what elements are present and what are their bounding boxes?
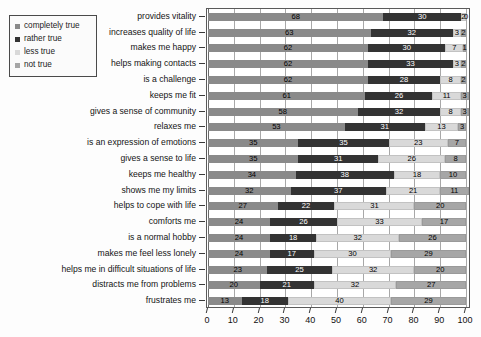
bar-row: 683020 [207, 13, 469, 21]
x-tick-70 [386, 308, 388, 313]
bar-segment-rather-true [260, 281, 314, 289]
bar-segment-less-true [314, 250, 391, 258]
category-label-9: gives a sense to life [0, 153, 200, 163]
bar-segment-not-true [399, 234, 466, 242]
x-tick-label-100: 100 [452, 315, 478, 325]
bar-segment-rather-true [270, 218, 337, 226]
bar-segment-rather-true [345, 123, 425, 131]
bar-row: 24183226 [207, 234, 469, 242]
category-label-11: shows me my limits [0, 185, 200, 195]
bar-segment-rather-true [365, 92, 432, 100]
x-tick-label-40: 40 [297, 315, 323, 325]
x-tick-label-20: 20 [246, 315, 272, 325]
bar-row: 13184029 [207, 297, 469, 305]
bar-segment-not-true [461, 76, 466, 84]
bar-segment-rather-true [242, 297, 288, 305]
x-tick-20 [257, 308, 259, 313]
x-tick-0 [206, 308, 208, 313]
category-label-2: makes me happy [0, 42, 200, 52]
bar-row: 20213227 [207, 281, 469, 289]
x-tick-60 [361, 308, 363, 313]
bar-segment-rather-true [368, 60, 453, 68]
bar-row: 5331133 [207, 123, 469, 131]
bar-row: 24263317 [207, 218, 469, 226]
bar-segment-completely-true [208, 76, 368, 84]
y-tick-6 [199, 111, 205, 112]
bar-segment-completely-true [208, 123, 345, 131]
bar-segment-less-true [461, 13, 466, 21]
bar-segment-not-true [463, 44, 466, 52]
bar-segment-completely-true [208, 218, 270, 226]
bar-segment-less-true [386, 187, 440, 195]
bar-row: 623332 [207, 60, 469, 68]
bar-segment-rather-true [270, 250, 314, 258]
bar-segment-completely-true [208, 281, 260, 289]
bar-segment-less-true [440, 76, 461, 84]
bar-segment-completely-true [208, 250, 270, 258]
plot-area: 6830206332326230716233326228826126113583… [206, 8, 470, 308]
category-label-10: keeps me healthy [0, 169, 200, 179]
stacked-bars: 6830206332326230716233326228826126113583… [207, 9, 469, 307]
y-tick-2 [199, 47, 205, 48]
bar-segment-less-true [453, 60, 461, 68]
bar-row: 3531268 [207, 155, 469, 163]
bar-segment-less-true [389, 139, 448, 147]
category-label-7: relaxes me [0, 121, 200, 131]
bar-segment-completely-true [208, 108, 358, 116]
x-tick-30 [283, 308, 285, 313]
chart-root: completely truerather trueless truenot t… [0, 0, 481, 337]
bar-segment-completely-true [208, 44, 368, 52]
bar-segment-rather-true [291, 187, 386, 195]
x-tick-label-30: 30 [271, 315, 297, 325]
bar-segment-not-true [440, 171, 466, 179]
x-tick-40 [309, 308, 311, 313]
bar-row: 27223120 [207, 202, 469, 210]
bar-segment-not-true [414, 202, 466, 210]
bar-row: 6126113 [207, 92, 469, 100]
bar-row: 23253220 [207, 266, 469, 274]
bar-segment-not-true [461, 29, 466, 37]
bar-segment-rather-true [298, 139, 388, 147]
bar-row: 3535237 [207, 139, 469, 147]
category-label-6: gives a sense of community [0, 106, 200, 116]
bar-segment-less-true [337, 218, 422, 226]
bar-row: 583283 [207, 108, 469, 116]
category-label-16: helps me in difficult situations of life [0, 264, 200, 274]
bar-row: 32372111 [207, 187, 469, 195]
bar-segment-not-true [461, 108, 469, 116]
bar-segment-less-true [334, 202, 414, 210]
category-label-3: helps making contacts [0, 58, 200, 68]
category-label-18: frustrates me [0, 295, 200, 305]
y-tick-16 [199, 269, 205, 270]
y-tick-14 [199, 237, 205, 238]
y-tick-7 [199, 126, 205, 127]
bar-segment-rather-true [368, 76, 440, 84]
bar-segment-not-true [445, 155, 466, 163]
bar-segment-less-true [378, 155, 445, 163]
x-tick-label-90: 90 [426, 315, 452, 325]
category-label-0: provides vitality [0, 11, 200, 21]
bar-segment-not-true [396, 281, 466, 289]
bar-segment-not-true [391, 250, 466, 258]
x-tick-100 [464, 308, 466, 313]
bar-segment-less-true [425, 123, 459, 131]
y-tick-15 [199, 253, 205, 254]
bar-segment-not-true [461, 60, 466, 68]
category-label-15: makes me feel less lonely [0, 248, 200, 258]
bar-segment-completely-true [208, 60, 368, 68]
bar-segment-completely-true [208, 297, 242, 305]
bar-segment-completely-true [208, 92, 365, 100]
bar-segment-rather-true [278, 202, 335, 210]
bar-segment-rather-true [383, 13, 460, 21]
bar-segment-rather-true [296, 171, 394, 179]
category-label-12: helps to cope with life [0, 200, 200, 210]
bar-row: 623071 [207, 44, 469, 52]
bar-segment-rather-true [358, 108, 441, 116]
bar-segment-less-true [440, 108, 461, 116]
bar-row: 622882 [207, 76, 469, 84]
y-tick-17 [199, 284, 205, 285]
bar-segment-less-true [332, 266, 415, 274]
y-tick-8 [199, 142, 205, 143]
x-tick-label-80: 80 [400, 315, 426, 325]
bar-segment-not-true [422, 218, 466, 226]
